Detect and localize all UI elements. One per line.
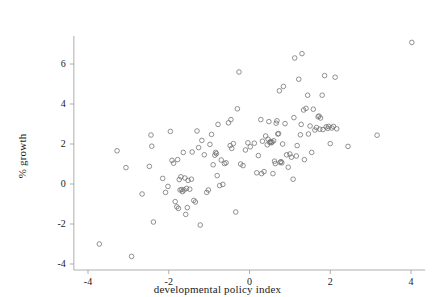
data-point (129, 254, 134, 259)
data-point (410, 40, 415, 45)
data-point (281, 84, 286, 89)
x-tick-label: 0 (238, 276, 262, 287)
data-point (271, 171, 276, 176)
x-tick-label: -4 (76, 276, 100, 287)
x-tick-label: 4 (399, 276, 423, 287)
data-point (277, 89, 282, 94)
data-point (254, 171, 259, 176)
data-point (305, 93, 310, 98)
y-tick-label: 2 (42, 138, 66, 149)
data-point (302, 157, 307, 162)
data-point (173, 199, 178, 204)
data-point (229, 117, 234, 122)
data-point (243, 148, 248, 153)
data-point (299, 122, 304, 127)
data-point (375, 133, 380, 138)
data-point (298, 133, 303, 138)
data-point (295, 143, 300, 148)
data-point (181, 150, 186, 155)
data-point (183, 176, 188, 181)
data-point (292, 56, 297, 61)
data-point (151, 220, 156, 225)
data-point (190, 150, 195, 155)
data-point (306, 132, 311, 137)
y-tick-label: -4 (42, 258, 66, 269)
data-point (140, 192, 145, 197)
data-point (115, 149, 120, 154)
data-point (166, 184, 171, 189)
data-point (237, 70, 242, 75)
data-point (259, 117, 264, 122)
data-point (286, 165, 291, 170)
data-point (226, 121, 231, 126)
data-point (300, 51, 305, 56)
data-point (147, 164, 152, 169)
data-point (175, 157, 180, 162)
y-tick-label: 4 (42, 98, 66, 109)
y-tick-label: 0 (42, 178, 66, 189)
data-point (296, 77, 301, 82)
data-point (235, 107, 240, 112)
data-point-group (97, 40, 414, 259)
data-point (216, 122, 221, 127)
data-point (215, 173, 220, 178)
x-tick-label: 2 (318, 276, 342, 287)
data-point (168, 129, 173, 134)
data-point (211, 163, 216, 168)
data-point (149, 144, 154, 149)
data-point (246, 141, 251, 146)
data-point (267, 119, 272, 124)
data-point (320, 93, 325, 98)
data-point (187, 187, 192, 192)
data-point (322, 73, 327, 78)
data-point (195, 129, 200, 134)
x-tick-label: -2 (157, 276, 181, 287)
data-point (291, 177, 296, 182)
data-point (149, 133, 154, 138)
data-point (333, 75, 338, 80)
data-point (196, 145, 201, 150)
data-point (209, 132, 214, 137)
data-point (160, 176, 165, 181)
data-point (260, 139, 265, 144)
data-point (252, 141, 257, 146)
data-point (200, 138, 205, 143)
data-point (309, 150, 314, 155)
data-point (334, 127, 339, 132)
x-axis-label: developmental policy index (0, 283, 435, 295)
data-point (208, 142, 213, 147)
data-point (224, 161, 229, 166)
y-axis-label: % growth (16, 106, 28, 206)
data-point (202, 153, 207, 158)
tick-marks (70, 64, 411, 274)
data-point (308, 124, 313, 129)
data-point (256, 153, 261, 158)
data-point (233, 210, 238, 215)
data-point (280, 142, 285, 147)
data-point (163, 190, 168, 195)
y-tick-label: -2 (42, 218, 66, 229)
data-point (328, 141, 333, 146)
data-point (283, 121, 288, 126)
data-point (183, 212, 188, 217)
scatter-plot-figure: developmental policy index % growth -4-2… (0, 0, 435, 297)
y-tick-label: 6 (42, 58, 66, 69)
data-point (185, 205, 190, 210)
data-point (346, 144, 351, 149)
data-point (198, 223, 203, 228)
data-point (294, 154, 299, 159)
axis-lines (74, 36, 425, 270)
data-point (284, 153, 289, 158)
data-point (311, 107, 316, 112)
data-point (263, 134, 268, 139)
data-point (292, 115, 297, 120)
data-point (97, 242, 102, 247)
data-point (124, 165, 129, 170)
